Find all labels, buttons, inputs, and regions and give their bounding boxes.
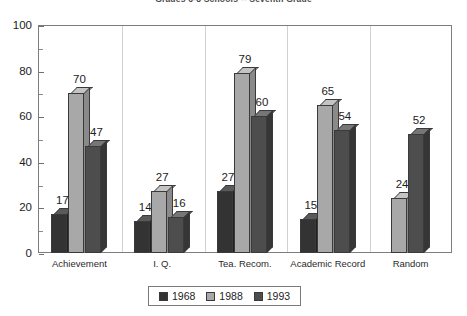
chart-title: Grades 6-8 Schools -- Seventh Grade bbox=[0, 0, 467, 4]
bar-side-face bbox=[350, 124, 356, 253]
legend-item-1993: 1993 bbox=[254, 291, 290, 302]
bar-value-label: 52 bbox=[399, 114, 439, 126]
bar-side-face bbox=[267, 110, 273, 253]
bar-front-face bbox=[85, 146, 101, 253]
group-separator bbox=[370, 26, 371, 252]
chart-legend: 196819881993 bbox=[148, 286, 301, 306]
bar-side-face bbox=[101, 140, 107, 253]
bar-front-face bbox=[334, 130, 350, 253]
bar-1968-tea-recom bbox=[217, 191, 233, 253]
y-axis-minor-tick bbox=[39, 94, 43, 95]
y-axis-minor-tick bbox=[39, 49, 43, 50]
bar-front-face bbox=[300, 219, 316, 253]
y-axis-tick-label: 40 bbox=[0, 156, 32, 168]
bar-value-label: 16 bbox=[159, 197, 199, 209]
y-axis-tick-label: 100 bbox=[0, 19, 32, 31]
bar-side-face bbox=[424, 128, 430, 253]
y-axis-minor-tick bbox=[39, 186, 43, 187]
bar-1993-achievement bbox=[85, 146, 101, 253]
bar-front-face bbox=[134, 221, 150, 253]
legend-label: 1968 bbox=[172, 291, 195, 302]
bar-front-face bbox=[391, 198, 407, 253]
bar-value-label: 79 bbox=[225, 53, 265, 65]
y-axis-minor-tick bbox=[39, 231, 43, 232]
bar-front-face bbox=[251, 116, 267, 253]
bar-front-face bbox=[217, 191, 233, 253]
group-separator bbox=[205, 26, 206, 252]
bar-1993-academic-record bbox=[334, 130, 350, 253]
bar-1988-random bbox=[391, 198, 407, 253]
bar-1993-tea-recom bbox=[251, 116, 267, 253]
legend-label: 1988 bbox=[219, 291, 242, 302]
bar-front-face bbox=[68, 93, 84, 253]
y-axis-tick-label: 20 bbox=[0, 201, 32, 213]
legend-item-1968: 1968 bbox=[159, 291, 195, 302]
legend-swatch-1988 bbox=[206, 292, 215, 301]
bar-1968-i-q bbox=[134, 221, 150, 253]
y-axis-major-tick bbox=[39, 117, 44, 118]
y-axis-major-tick bbox=[39, 208, 44, 209]
x-axis-category-label: Random bbox=[351, 258, 467, 269]
y-axis-major-tick bbox=[39, 254, 44, 255]
bar-1968-academic-record bbox=[300, 219, 316, 253]
bar-value-label: 70 bbox=[59, 73, 99, 85]
legend-swatch-1968 bbox=[159, 292, 168, 301]
bar-side-face bbox=[184, 211, 190, 253]
bar-front-face bbox=[51, 214, 67, 253]
bar-front-face bbox=[317, 105, 333, 253]
legend-label: 1993 bbox=[267, 291, 290, 302]
bar-chart: Grades 6-8 Schools -- Seventh Grade 0204… bbox=[0, 0, 467, 316]
bar-value-label: 60 bbox=[242, 96, 282, 108]
y-axis-major-tick bbox=[39, 163, 44, 164]
y-axis-major-tick bbox=[39, 72, 44, 73]
y-axis-tick-label: 80 bbox=[0, 65, 32, 77]
bar-front-face bbox=[408, 134, 424, 253]
bar-front-face bbox=[168, 217, 184, 253]
bar-value-label: 47 bbox=[76, 126, 116, 138]
legend-item-1988: 1988 bbox=[206, 291, 242, 302]
group-separator bbox=[122, 26, 123, 252]
bar-1988-achievement bbox=[68, 93, 84, 253]
y-axis-minor-tick bbox=[39, 140, 43, 141]
group-separator bbox=[287, 26, 288, 252]
bar-1968-achievement bbox=[51, 214, 67, 253]
bar-1993-i-q bbox=[168, 217, 184, 253]
bar-1993-random bbox=[408, 134, 424, 253]
legend-swatch-1993 bbox=[254, 292, 263, 301]
y-axis-tick-label: 60 bbox=[0, 110, 32, 122]
bar-value-label: 54 bbox=[325, 110, 365, 122]
bar-1988-academic-record bbox=[317, 105, 333, 253]
y-axis-major-tick bbox=[39, 26, 44, 27]
bar-value-label: 27 bbox=[142, 171, 182, 183]
bar-value-label: 65 bbox=[308, 85, 348, 97]
